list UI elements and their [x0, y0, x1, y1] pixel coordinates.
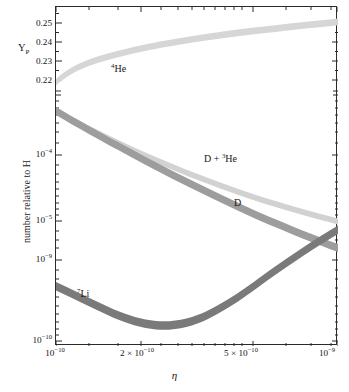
right-axis-ticks [332, 23, 338, 341]
yp-axis-title-subscript: P [26, 48, 30, 56]
yp-tick-label-0: 0.25 [10, 19, 52, 28]
x-tick-exponent-1: −10 [144, 346, 154, 353]
curve-label-d: D [234, 197, 241, 208]
curve-label-he4-text: He [114, 63, 126, 74]
y-tick-mantissa-0: 10 [36, 149, 45, 159]
y-tick-label-0: 10−4 [10, 150, 52, 159]
y-tick-exponent-2: −9 [45, 252, 52, 259]
y-tick-exponent-1: −5 [45, 213, 52, 220]
top-axis-ticks [56, 7, 338, 12]
curve-band-li7 [56, 226, 338, 330]
yp-tick-label-3: 0.22 [10, 76, 52, 85]
plot-area: 4He D + 3He D 7Li [55, 6, 337, 345]
curve-band-he4 [56, 19, 338, 86]
curve-label-d3he-tail: He [225, 153, 237, 164]
y-tick-label-1: 10−5 [10, 216, 52, 225]
curve-label-he4: 4He [111, 63, 126, 74]
y-tick-mantissa-1: 10 [36, 215, 45, 225]
x-tick-exponent-3: −9 [328, 346, 335, 353]
x-tick-exponent-2: −10 [248, 346, 258, 353]
curve-label-li7: 7Li [77, 288, 89, 299]
curve-band-d3he [56, 108, 338, 225]
yp-tick-label-1: 0.24 [10, 38, 52, 47]
y-tick-label-2: 10−9 [10, 255, 52, 264]
plot-canvas [56, 7, 338, 346]
x-tick-exponent-0: −10 [54, 346, 64, 353]
y-tick-label-3: 10−10 [10, 336, 52, 345]
curve-label-d3he-text: D + [204, 153, 222, 164]
yp-tick-label-2: 0.23 [10, 57, 52, 66]
x-tick-label-2: 5 × 10−10 [210, 349, 272, 358]
bottom-axis-ticks [56, 341, 338, 346]
x-tick-label-0: 10−10 [34, 349, 76, 358]
y-tick-exponent-3: −10 [42, 333, 52, 340]
curve-label-d3he: D + 3He [204, 153, 237, 164]
curve-label-li7-text: Li [80, 288, 89, 299]
x-tick-label-3: 10−9 [306, 349, 348, 358]
x-tick-label-1: 2 × 10−10 [106, 349, 168, 358]
x-tick-mantissa-2: 5 × 10 [224, 348, 248, 358]
y-tick-exponent-0: −4 [45, 147, 52, 154]
x-tick-mantissa-1: 2 × 10 [120, 348, 144, 358]
y-tick-mantissa-2: 10 [36, 254, 45, 264]
y-tick-mantissa-3: 10 [33, 335, 42, 345]
bbn-abundance-figure: YP number relative to H 0.25 0.24 0.23 0… [0, 0, 349, 392]
x-axis-title: η [0, 369, 349, 381]
x-tick-mantissa-3: 10 [319, 348, 328, 358]
